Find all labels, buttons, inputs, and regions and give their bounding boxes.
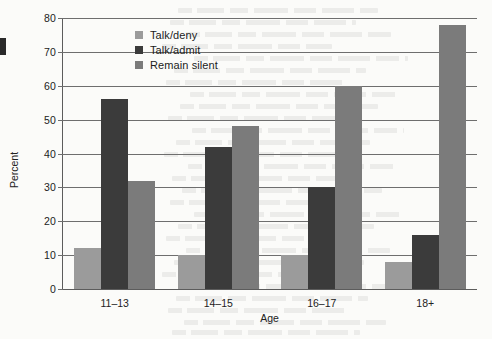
page-edge-mark [0,38,6,55]
legend-swatch-icon [135,31,143,39]
y-axis-tick-label: 10 [44,249,56,261]
bar [281,255,308,289]
bar-groups: 11–1314–1516–1718+ [63,18,477,289]
legend-swatch-icon [135,46,143,54]
bar [385,262,412,289]
x-axis-title: Age [62,312,477,324]
y-axis-tick-label: 80 [44,12,56,24]
bar [205,147,232,289]
bar [232,126,259,289]
bar [308,187,335,289]
legend-label: Remain silent [150,59,218,71]
bar-chart: Percent 01020304050607080 11–1314–1516–1… [0,0,492,339]
bar [101,99,128,289]
y-axis-title: Percent [8,151,20,187]
bar [335,86,362,289]
y-axis-tick-label: 20 [44,215,56,227]
legend: Talk/denyTalk/admitRemain silent [135,29,218,71]
bar-group: 18+ [374,18,478,289]
legend-item: Remain silent [135,59,218,71]
y-axis-tick-label: 60 [44,80,56,92]
bar-group: 16–17 [270,18,374,289]
bar [412,235,439,289]
x-axis-tick-label: 16–17 [307,297,336,309]
y-axis-tick-label: 0 [50,283,56,295]
y-axis-tick-label: 50 [44,114,56,126]
bar [128,181,155,289]
legend-item: Talk/admit [135,44,218,56]
bar [178,255,205,289]
x-axis-tick-label: 11–13 [101,297,129,309]
y-axis-tick [58,289,63,290]
y-axis-tick-label: 40 [44,148,56,160]
x-axis-tick-label: 14–15 [204,297,233,309]
y-axis-tick-label: 70 [44,46,56,58]
legend-swatch-icon [135,61,143,69]
legend-label: Talk/admit [150,44,201,56]
y-axis-tick-label: 30 [44,181,56,193]
plot-area: 01020304050607080 11–1314–1516–1718+ [62,18,477,290]
bar [439,25,466,289]
x-axis-tick-label: 18+ [416,297,434,309]
legend-item: Talk/deny [135,29,218,41]
legend-label: Talk/deny [150,29,197,41]
bar [74,248,101,289]
